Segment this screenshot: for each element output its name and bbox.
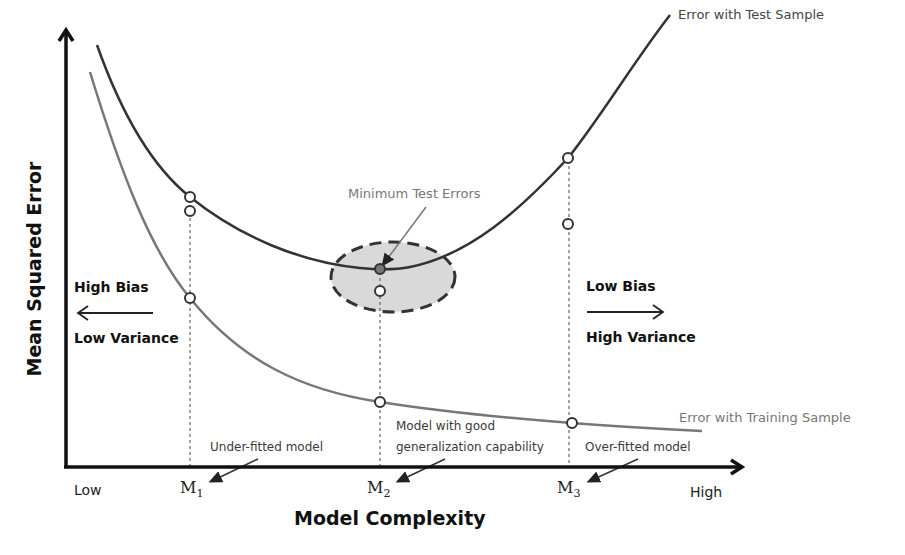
marker-m3-sub: 3 bbox=[573, 487, 580, 500]
marker-m2-base: M bbox=[367, 478, 383, 497]
good-pointer bbox=[401, 459, 445, 480]
marker-m2: M2 bbox=[367, 478, 390, 500]
low-bias-label: Low Bias bbox=[586, 278, 656, 294]
marker-m3: M3 bbox=[557, 478, 580, 500]
marker-m1-base: M bbox=[180, 478, 196, 497]
test-point-m2 bbox=[375, 264, 385, 274]
mid-point-m2 bbox=[375, 286, 385, 296]
x-axis-label: Model Complexity bbox=[294, 507, 486, 529]
good-model-label-2: generalization capability bbox=[396, 440, 544, 454]
marker-m1: M1 bbox=[180, 478, 203, 500]
underfit-pointer bbox=[214, 459, 258, 480]
y-axis-label: Mean Squared Error bbox=[23, 149, 45, 389]
test-error-curve bbox=[97, 15, 670, 269]
overfit-label: Over-fitted model bbox=[585, 440, 691, 454]
train-point-m1 bbox=[185, 293, 195, 303]
train-point-m3 bbox=[567, 418, 577, 428]
good-model-label-1: Model with good bbox=[396, 419, 495, 433]
marker-m3-base: M bbox=[557, 478, 573, 497]
test-point-m1 bbox=[185, 192, 195, 202]
high-variance-label: High Variance bbox=[586, 329, 696, 345]
x-axis-low-label: Low bbox=[74, 482, 102, 498]
marker-m2-sub: 2 bbox=[383, 487, 390, 500]
training-curve-label: Error with Training Sample bbox=[679, 410, 851, 425]
overfit-pointer bbox=[592, 459, 638, 480]
marker-m1-sub: 1 bbox=[196, 487, 203, 500]
high-bias-label: High Bias bbox=[74, 279, 149, 295]
mid-point-m3 bbox=[563, 219, 573, 229]
underfit-label: Under-fitted model bbox=[210, 440, 323, 454]
train-point-m2 bbox=[375, 397, 385, 407]
minimum-test-errors-label: Minimum Test Errors bbox=[348, 186, 481, 201]
mid-point-m1 bbox=[185, 206, 195, 216]
chart-canvas bbox=[0, 0, 905, 555]
test-curve-label: Error with Test Sample bbox=[678, 7, 824, 22]
test-point-m3 bbox=[563, 153, 573, 163]
low-variance-label: Low Variance bbox=[74, 330, 179, 346]
x-axis-high-label: High bbox=[690, 484, 722, 500]
left-arrow bbox=[78, 306, 153, 320]
marker-guidelines bbox=[190, 160, 569, 466]
right-arrow bbox=[587, 305, 663, 319]
